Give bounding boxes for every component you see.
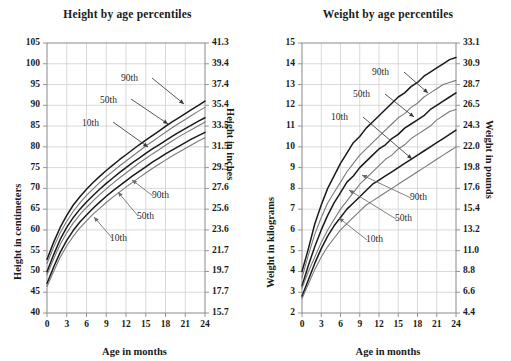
percentile-label-10th-boys: 10th — [82, 118, 99, 128]
y-tick-left: 75 — [0, 163, 40, 173]
y-tick-right: 30.9 — [463, 59, 480, 69]
percentile-label-10th-boys: 10th — [331, 112, 348, 122]
y-tick-left: 95 — [0, 80, 40, 90]
y-tick-left: 10 — [255, 142, 295, 152]
percentile-label-50th-boys: 50th — [353, 89, 370, 99]
y-tick-left: 90 — [0, 100, 40, 110]
percentile-label-90th-boys: 90th — [372, 67, 389, 77]
y-tick-right: 11.0 — [463, 246, 479, 256]
y-tick-left: 105 — [0, 38, 40, 48]
y-tick-right: 17.7 — [212, 287, 229, 297]
y-tick-left: 9 — [255, 163, 295, 173]
growth-charts-figure: Height by age percentiles 10510095908580… — [0, 0, 511, 361]
y-tick-left: 15 — [255, 38, 295, 48]
y-tick-right: 28.7 — [463, 80, 480, 90]
y-tick-right: 27.6 — [212, 183, 229, 193]
x-axis-title-height: Age in months — [0, 346, 255, 357]
y-axis-left-title-weight: Weight in kilograms — [265, 197, 276, 288]
y-tick-left: 80 — [0, 142, 40, 152]
x-tick: 24 — [191, 320, 219, 330]
chart-weight-by-age: Weight by age percentiles 15141312111098… — [255, 0, 511, 361]
y-tick-right: 21.7 — [212, 246, 229, 256]
y-tick-right: 15.7 — [212, 308, 229, 318]
y-tick-right: 24.3 — [463, 121, 480, 131]
percentile-label-10th-girls: 10th — [366, 234, 383, 244]
y-tick-left: 3 — [255, 287, 295, 297]
y-tick-left: 2 — [255, 308, 295, 318]
chart-height-by-age: Height by age percentiles 10510095908580… — [0, 0, 255, 361]
y-tick-right: 39.4 — [212, 59, 229, 69]
y-tick-right: 15.4 — [463, 204, 480, 214]
percentile-label-50th-girls: 50th — [395, 213, 412, 223]
y-tick-right: 17.6 — [463, 183, 480, 193]
y-axis-right-title-height: Height in inches — [225, 108, 236, 180]
y-tick-right: 26.5 — [463, 100, 480, 110]
y-tick-right: 33.1 — [463, 38, 480, 48]
percentile-label-90th-boys: 90th — [121, 73, 138, 83]
y-tick-left: 14 — [255, 59, 295, 69]
percentile-label-10th-girls: 10th — [110, 233, 127, 243]
y-tick-left: 12 — [255, 100, 295, 110]
y-tick-right: 22.0 — [463, 142, 480, 152]
percentile-label-90th-girls: 90th — [152, 190, 169, 200]
y-tick-right: 6.6 — [463, 287, 475, 297]
y-tick-right: 19.7 — [212, 266, 229, 276]
y-tick-left: 100 — [0, 59, 40, 69]
y-tick-right: 37.4 — [212, 80, 229, 90]
y-tick-left: 8 — [255, 183, 295, 193]
x-tick: 24 — [442, 320, 470, 330]
y-tick-right: 4.4 — [463, 308, 475, 318]
gridlines-height — [47, 43, 205, 313]
y-tick-right: 25.6 — [212, 204, 229, 214]
percentile-label-50th-girls: 50th — [137, 211, 154, 221]
y-tick-right: 19.8 — [463, 163, 480, 173]
percentile-label-50th-boys: 50th — [100, 95, 117, 105]
y-axis-right-title-weight: Weight in pounds — [484, 120, 495, 199]
y-tick-right: 13.2 — [463, 225, 480, 235]
y-tick-left: 85 — [0, 121, 40, 131]
y-tick-left: 11 — [255, 121, 295, 131]
y-axis-left-title-height: Height in centimeters — [12, 184, 23, 280]
y-tick-left: 13 — [255, 80, 295, 90]
y-tick-left: 40 — [0, 308, 40, 318]
x-axis-title-weight: Age in months — [255, 346, 511, 357]
y-tick-right: 8.8 — [463, 266, 475, 276]
y-tick-left: 45 — [0, 287, 40, 297]
y-tick-right: 23.6 — [212, 225, 229, 235]
percentile-label-90th-girls: 90th — [410, 192, 427, 202]
y-tick-right: 41.3 — [212, 38, 229, 48]
gridlines-weight — [302, 43, 456, 313]
